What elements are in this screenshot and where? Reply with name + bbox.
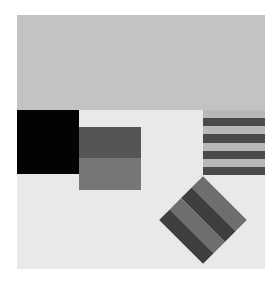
stripe xyxy=(203,151,265,159)
two-tone-square-bottom xyxy=(79,158,141,190)
two-tone-square xyxy=(79,127,141,190)
diamond-container xyxy=(159,176,247,264)
striped-square xyxy=(203,110,265,175)
stripe xyxy=(203,143,265,151)
two-tone-square-top xyxy=(79,127,141,158)
stripe xyxy=(203,110,265,118)
stripe xyxy=(203,167,265,175)
gray-sky-panel xyxy=(17,15,265,110)
stripe xyxy=(203,134,265,142)
stripe xyxy=(203,126,265,134)
black-square xyxy=(17,110,79,174)
rotated-striped-diamond xyxy=(159,176,247,264)
artwork-canvas xyxy=(17,15,265,269)
stripe xyxy=(203,159,265,167)
stripe xyxy=(203,118,265,126)
